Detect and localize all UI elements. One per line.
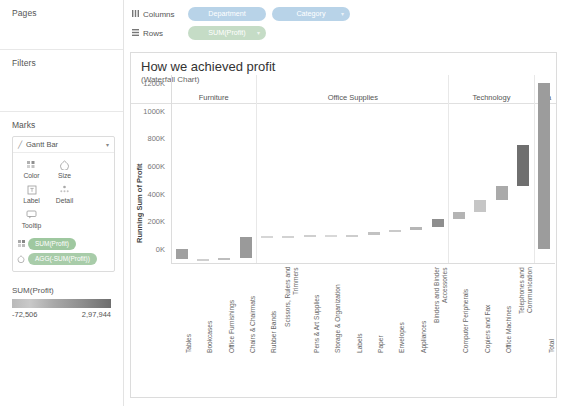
pill-sum-profit-menu-icon[interactable]: ▾ — [257, 29, 260, 38]
category-axis-label[interactable]: Storage & Organization — [320, 267, 341, 353]
tableau-workspace: Pages Filters Marks ╱ Gantt Bar ▾ — [0, 0, 563, 406]
chart-bar[interactable] — [496, 186, 508, 199]
marks-label: Marks — [12, 120, 115, 130]
marks-size-button[interactable]: Size — [48, 157, 81, 182]
chart-bar[interactable] — [538, 83, 550, 249]
chart-bar[interactable] — [517, 145, 529, 186]
group-separator — [448, 75, 449, 263]
category-axis-label[interactable]: Bookcases — [192, 267, 213, 353]
marks-detail-label: Detail — [56, 197, 73, 204]
color-marks-icon — [17, 240, 25, 248]
columns-shelf-label: Columns — [132, 10, 188, 19]
category-axis-label[interactable]: Scissors, Rulers and Trimmers — [278, 267, 299, 353]
filters-label: Filters — [12, 58, 113, 68]
marks-pill-size[interactable]: AGG(-SUM(Profit)) — [17, 253, 110, 265]
marks-card: ╱ Gantt Bar ▾ — [12, 136, 115, 272]
category-axis-label[interactable]: Office Furnishings — [214, 267, 235, 353]
mark-type-dropdown[interactable]: ╱ Gantt Bar ▾ — [13, 137, 114, 153]
rows-drop-area[interactable]: SUM(Profit) ▾ — [188, 26, 555, 40]
visualization-pane: How we achieved profit (Waterfall Chart)… — [130, 52, 557, 398]
marks-color-label: Color — [23, 172, 39, 179]
category-axis-label[interactable]: Office Machines — [491, 267, 512, 353]
columns-label-text: Columns — [143, 10, 175, 19]
marks-color-button[interactable]: Color — [15, 157, 48, 182]
shelves-container: Columns Department Category ▾ — [124, 0, 563, 48]
marks-label-button[interactable]: Label — [15, 182, 48, 207]
rows-shelf-label: Rows — [132, 29, 188, 38]
category-axis-label[interactable]: Envelopes — [384, 267, 405, 353]
marks-pill-size-label[interactable]: AGG(-SUM(Profit)) — [28, 253, 97, 265]
pages-shelf[interactable]: Pages — [0, 0, 123, 50]
main-area: Columns Department Category ▾ — [124, 0, 563, 406]
mark-property-buttons: Color Size — [13, 153, 114, 236]
plot-area: Running Sum of Profit 0K200K400K600K800K… — [131, 53, 556, 397]
filters-shelf[interactable]: Filters — [0, 50, 123, 112]
chart-bar[interactable] — [389, 230, 401, 232]
chart-bar[interactable] — [240, 237, 252, 257]
marks-detail-button[interactable]: Detail — [48, 182, 81, 207]
y-axis-tick: 200K — [131, 217, 165, 226]
chart-bar[interactable] — [218, 258, 230, 261]
pill-category-menu-icon[interactable]: ▾ — [341, 10, 344, 19]
pill-department[interactable]: Department — [188, 7, 266, 21]
group-separator — [256, 75, 257, 263]
columns-icon — [132, 10, 139, 18]
y-axis-tick: 800K — [131, 134, 165, 143]
marks-pill-color-label[interactable]: SUM(Profit) — [28, 238, 76, 250]
chart-bar[interactable] — [197, 259, 209, 261]
chart-bar[interactable] — [346, 235, 358, 237]
category-axis-label[interactable]: Chairs & Chairmats — [235, 267, 256, 353]
category-axis-label[interactable]: Rubber Bands — [256, 267, 277, 353]
size-marks-icon — [17, 255, 25, 264]
legend-scale: -72,506 2,97,944 — [12, 310, 111, 319]
pill-category-label: Category — [296, 8, 325, 20]
pill-department-label: Department — [208, 8, 246, 20]
rows-shelf[interactable]: Rows SUM(Profit) ▾ — [132, 25, 555, 41]
group-separator — [534, 75, 535, 263]
marks-tooltip-button[interactable]: Tooltip — [15, 207, 48, 232]
chart-bar[interactable] — [432, 219, 444, 227]
y-axis-tick: 0K — [131, 245, 165, 254]
columns-drop-area[interactable]: Department Category ▾ — [188, 7, 555, 21]
category-axis-label[interactable]: Appliances — [406, 267, 427, 353]
color-legend: SUM(Profit) -72,506 2,97,944 — [0, 276, 123, 329]
chart-bar[interactable] — [453, 212, 465, 219]
category-axis-label[interactable]: Binders and Binder Accessories — [427, 267, 448, 353]
columns-shelf[interactable]: Columns Department Category ▾ — [132, 6, 555, 22]
legend-min-value: -72,506 — [12, 310, 37, 319]
legend-gradient-bar[interactable] — [12, 299, 111, 308]
chart-bar[interactable] — [304, 235, 316, 237]
rows-label-text: Rows — [143, 29, 163, 38]
left-sidebar: Pages Filters Marks ╱ Gantt Bar ▾ — [0, 0, 124, 406]
marks-pill-color[interactable]: SUM(Profit) — [17, 238, 110, 250]
category-axis-label[interactable]: Pens & Art Supplies — [299, 267, 320, 353]
color-icon — [25, 159, 38, 170]
legend-max-value: 2,97,944 — [82, 310, 111, 319]
y-axis-tick: 400K — [131, 189, 165, 198]
marks-label-label: Label — [23, 197, 40, 204]
category-axis-label[interactable]: Labels — [342, 267, 363, 353]
tooltip-icon — [25, 209, 38, 220]
mark-type-value: Gantt Bar — [26, 140, 102, 149]
category-axis-label[interactable]: Copiers and Fax — [470, 267, 491, 353]
chart-bar[interactable] — [410, 227, 422, 230]
category-axis-label[interactable]: Total — [534, 267, 555, 353]
category-axis-label[interactable]: Telephones and Communication — [512, 267, 533, 353]
chart-bar[interactable] — [176, 249, 188, 259]
chart-bar[interactable] — [261, 236, 273, 238]
chart-bar[interactable] — [474, 200, 486, 212]
marks-size-label: Size — [58, 172, 71, 179]
chevron-down-icon[interactable]: ▾ — [106, 141, 109, 148]
size-icon — [58, 159, 71, 170]
category-axis-label[interactable]: Paper — [363, 267, 384, 353]
category-axis-label[interactable]: Tables — [171, 267, 192, 353]
y-axis-line — [171, 75, 172, 263]
pill-sum-profit[interactable]: SUM(Profit) ▾ — [188, 26, 266, 40]
chart-bar[interactable] — [325, 235, 337, 237]
chart-bar[interactable] — [368, 232, 380, 235]
category-axis-label[interactable]: Computer Peripherals — [448, 267, 469, 353]
pill-category[interactable]: Category ▾ — [272, 7, 350, 21]
y-axis-tick: 1200K — [131, 79, 165, 88]
x-axis-line — [171, 263, 555, 264]
chart-bar[interactable] — [282, 236, 294, 238]
